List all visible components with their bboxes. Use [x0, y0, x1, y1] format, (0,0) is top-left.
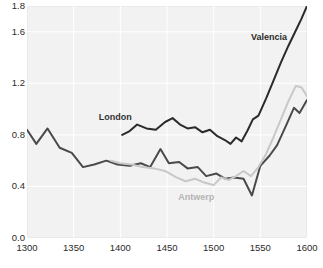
x-tick-label: 1300: [7, 243, 47, 253]
series-label-valencia: Valencia: [251, 33, 287, 42]
x-tick-label: 1400: [100, 243, 140, 253]
series-line-antwerp: [111, 86, 307, 185]
series-label-london: London: [99, 113, 132, 122]
y-tick-label: 0.8: [1, 130, 25, 140]
x-axis-tick-labels: 1300135014001450150015501600: [0, 243, 323, 257]
series-label-antwerp: Antwerp: [178, 193, 214, 202]
y-tick-label: 1.6: [1, 27, 25, 37]
x-tick-label: 1600: [287, 243, 323, 253]
line-chart: 0.00.40.81.21.61.8 130013501400145015001…: [0, 0, 323, 268]
y-tick-label: 1.2: [1, 78, 25, 88]
y-tick-label: 1.8: [1, 1, 25, 11]
x-tick-label: 1450: [147, 243, 187, 253]
x-tick-label: 1550: [240, 243, 280, 253]
x-tick-label: 1500: [194, 243, 234, 253]
y-axis-tick-labels: 0.00.40.81.21.61.8: [0, 0, 25, 268]
x-tick-label: 1350: [54, 243, 94, 253]
y-tick-label: 0.4: [1, 181, 25, 191]
